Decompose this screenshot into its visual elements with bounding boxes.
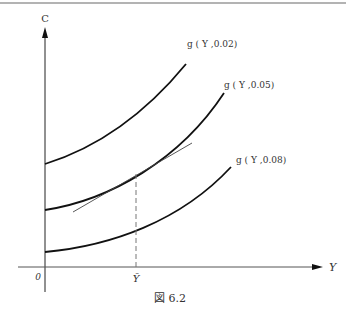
x-axis-label: Y [329,261,338,274]
y-axis-label: C [41,13,49,24]
tangent-line [73,143,192,212]
y-axis-arrow-icon [42,27,48,38]
figure-canvas: C Y 0 Ȳ g ( Y ,0.02) g ( Y ,0.05) g ( Y … [0,0,346,318]
curve-label-0.05: g ( Y ,0.05) [224,80,274,90]
curve-g-0.08 [45,167,231,252]
curve-g-0.05 [45,93,224,210]
curve-label-0.02: g ( Y ,0.02) [187,39,237,49]
curve-g-0.02 [45,64,186,164]
origin-label: 0 [35,272,41,282]
x-axis-arrow-icon [312,264,323,270]
figure-caption: 図 6.2 [154,292,186,305]
ybar-label: Ȳ [133,273,141,284]
curve-label-0.08: g ( Y ,0.08) [236,155,286,165]
